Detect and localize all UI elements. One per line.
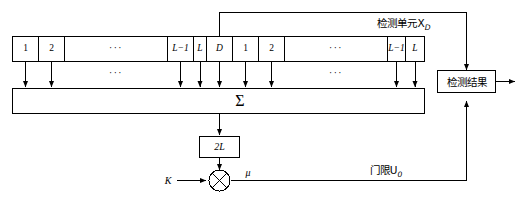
detection-cell-title-subscript: D: [425, 23, 431, 32]
diagram-canvas: [0, 0, 521, 203]
divider-box-label: 2L: [214, 142, 225, 152]
tap-ellipsis-left: ···: [109, 69, 123, 79]
tap-ellipsis-right: ···: [329, 69, 343, 79]
cell-label-left-L: L: [197, 44, 202, 54]
detection-cell-title: 检测单元XD: [377, 18, 430, 32]
cell-label-left-2: 2: [49, 44, 54, 54]
multiplier-symbol: [209, 170, 230, 191]
cell-label-right-2: 2: [269, 44, 274, 54]
summer-box-outline: [13, 89, 425, 114]
cell-label-right-L-minus-1: L−1: [388, 44, 404, 54]
cell-label-left-1: 1: [23, 44, 28, 54]
cell-label-left-L-minus-1: L−1: [172, 44, 188, 54]
cell-to-summer-arrows: [26, 62, 416, 88]
detection-cell-title-text: 检测单元X: [377, 17, 424, 29]
summer-sigma-label: Σ: [235, 93, 244, 109]
cfar-detector-block-diagram: 检测单元XD 1 2 ··· L−1 L D 1 2 ··· L−1 L ···…: [0, 0, 521, 203]
result-box-label: 检测结果: [447, 76, 487, 87]
cell-label-detection-D: D: [216, 44, 223, 54]
cell-label-right-ellipsis: ···: [329, 44, 343, 54]
cell-label-right-1: 1: [243, 44, 248, 54]
cell-label-right-L: L: [412, 44, 417, 54]
scale-factor-label: K: [165, 176, 172, 186]
threshold-mu-label: μ: [245, 168, 250, 178]
cell-label-left-ellipsis: ···: [109, 44, 123, 54]
threshold-path-label-text: 门限U: [370, 164, 398, 176]
threshold-path-label-subscript: 0: [397, 170, 402, 179]
threshold-path-label: 门限U0: [370, 165, 403, 179]
